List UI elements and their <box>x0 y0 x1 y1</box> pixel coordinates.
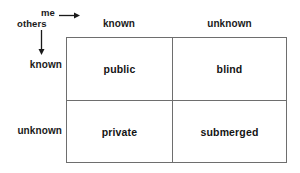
quadrant-private: private <box>67 101 172 162</box>
row-header-known: known <box>0 60 62 70</box>
vertical-axis-label: others <box>17 19 47 29</box>
column-header-unknown: unknown <box>172 19 287 29</box>
arrow-down-icon <box>37 30 46 55</box>
quadrant-submerged: submerged <box>173 101 286 162</box>
column-header-known: known <box>66 19 172 29</box>
quadrant-blind: blind <box>173 38 286 100</box>
horizontal-axis-label: me <box>41 8 55 18</box>
matrix-box: public blind private submerged <box>66 37 287 163</box>
quadrant-public: public <box>67 38 172 100</box>
johari-window-diagram: me others known unknown known unknown pu… <box>0 0 300 173</box>
arrow-right-icon <box>59 12 80 19</box>
row-header-unknown: unknown <box>0 126 62 136</box>
